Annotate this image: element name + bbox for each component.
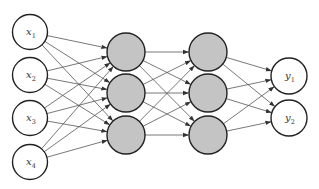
hidden-2-node-3 [189, 116, 227, 154]
hidden-2-node-2 [189, 74, 227, 112]
edge-input-3-to-hidden-1-3 [47, 121, 107, 132]
input-node-1: x1 [13, 15, 48, 50]
output-node-2: y2 [271, 100, 307, 136]
connection-edges [42, 36, 275, 158]
edge-hidden-2-3-to-output-2 [227, 122, 271, 131]
hidden-1-node-3 [107, 116, 145, 154]
input-node-4: x4 [13, 145, 48, 180]
edge-input-3-to-hidden-1-1 [44, 63, 110, 108]
output-node-1: y1 [271, 58, 307, 94]
input-node-3: x3 [13, 101, 48, 136]
input-node-2: x2 [13, 58, 48, 93]
edge-hidden-2-1-to-output-1 [226, 57, 271, 70]
hidden-1-node-1 [107, 33, 145, 71]
node-circle [189, 74, 227, 112]
node-circle [107, 116, 145, 154]
edge-hidden-2-2-to-output-1 [227, 80, 271, 89]
node-circle [189, 116, 227, 154]
neural-network-diagram: x1x2x3x4y1y2 [0, 0, 319, 189]
hidden-2-node-1 [189, 33, 227, 71]
edge-input-1-to-hidden-1-2 [45, 41, 110, 82]
node-circle [107, 74, 145, 112]
hidden-1-node-2 [107, 74, 145, 112]
edge-hidden-2-3-to-output-1 [223, 87, 274, 124]
node-circle [189, 33, 227, 71]
edge-input-1-to-hidden-1-3 [42, 45, 113, 121]
edge-input-2-to-hidden-1-3 [45, 84, 110, 124]
edge-input-2-to-hidden-1-1 [47, 57, 107, 71]
node-circle [107, 33, 145, 71]
edge-input-4-to-hidden-1-3 [47, 140, 107, 157]
edge-input-1-to-hidden-1-1 [47, 36, 107, 48]
